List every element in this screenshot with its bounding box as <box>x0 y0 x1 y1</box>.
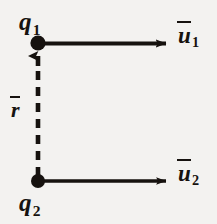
label-r-base: r <box>11 99 20 121</box>
label-q1-subscript: 1 <box>33 21 41 38</box>
label-q2-base: q <box>19 190 32 215</box>
label-separation-r: r <box>11 99 20 121</box>
label-q1-base: q <box>19 9 32 34</box>
label-velocity-u2: u2 <box>178 162 199 188</box>
label-charge-q2: q2 <box>19 190 40 218</box>
label-velocity-u1: u1 <box>178 24 199 50</box>
charge-point-q1 <box>30 35 45 50</box>
label-u2-base: u <box>178 162 191 185</box>
physics-diagram-figure: q1 q2 u1 u2 r <box>0 0 217 224</box>
label-u1-subscript: 1 <box>192 34 199 50</box>
charge-point-q2 <box>31 174 45 188</box>
label-u2-subscript: 2 <box>192 172 199 188</box>
label-q2-subscript: 2 <box>33 202 41 219</box>
label-u1-base: u <box>178 24 191 47</box>
label-charge-q1: q1 <box>19 9 40 37</box>
